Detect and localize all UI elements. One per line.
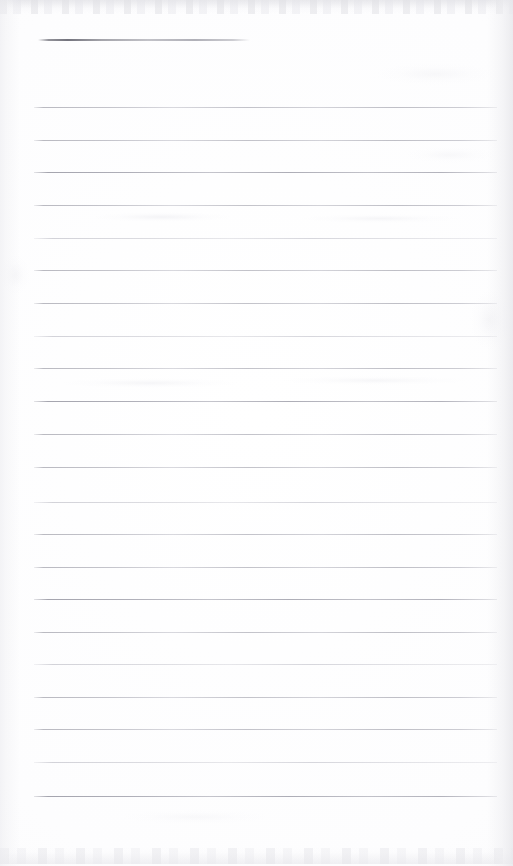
ruled-line <box>34 434 497 435</box>
ruled-line-ink <box>34 336 497 337</box>
ruled-line <box>34 368 497 369</box>
ruled-line <box>34 401 497 402</box>
ruled-line-ink <box>34 567 497 568</box>
left-edge-vignette <box>0 0 20 866</box>
ruled-line <box>34 762 497 763</box>
ruled-line <box>34 205 497 206</box>
ruled-line <box>34 140 497 141</box>
ruled-line <box>34 303 497 304</box>
ruled-line-ink <box>34 599 497 600</box>
ruled-line <box>34 664 497 665</box>
ruled-line <box>34 238 497 239</box>
ruled-line <box>34 632 497 633</box>
ruled-line-ink <box>34 368 497 369</box>
ruled-line-ink <box>34 172 497 173</box>
scanned-page <box>0 0 513 866</box>
ruled-line <box>34 502 497 503</box>
ruled-line-ink <box>34 664 497 665</box>
ruled-line <box>34 697 497 698</box>
ruled-line-ink <box>34 270 497 271</box>
ruled-line <box>34 534 497 535</box>
ruled-line-ink <box>34 697 497 698</box>
ruled-line-ink <box>34 303 497 304</box>
ruled-line <box>34 567 497 568</box>
ruled-line <box>34 107 497 108</box>
ruled-line-ink <box>34 238 497 239</box>
ruled-line <box>34 599 497 600</box>
ruled-line-ink <box>34 632 497 633</box>
ruled-line-ink <box>34 534 497 535</box>
ruled-line <box>34 729 497 730</box>
right-edge-vignette <box>487 0 513 866</box>
ruled-line <box>34 270 497 271</box>
ruled-line-ink <box>34 762 497 763</box>
ruled-line <box>34 172 497 173</box>
ruled-line <box>34 796 497 797</box>
ruled-line-ink <box>34 107 497 108</box>
ruled-line-ink <box>34 796 497 797</box>
ruled-line-ink <box>34 205 497 206</box>
ruled-line-ink <box>34 729 497 730</box>
ruled-line <box>34 467 497 468</box>
header-rule <box>38 39 250 41</box>
ruled-line-ink <box>34 140 497 141</box>
ruled-line-ink <box>34 502 497 503</box>
ruled-line <box>34 336 497 337</box>
ruled-line-ink <box>34 434 497 435</box>
ruled-line-ink <box>34 467 497 468</box>
ruled-line-ink <box>34 401 497 402</box>
